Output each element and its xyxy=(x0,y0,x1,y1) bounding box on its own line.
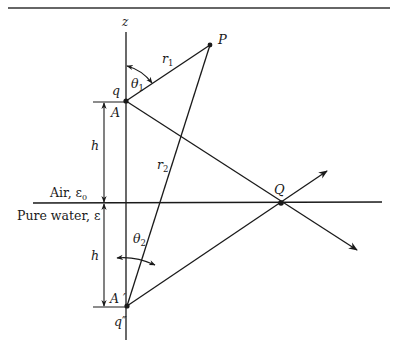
label-theta2: θ2 xyxy=(133,231,146,248)
label-A: A xyxy=(110,105,120,120)
air-medium-label: Air, ε0 xyxy=(49,185,87,202)
label-P: P xyxy=(217,32,227,47)
point-P xyxy=(208,43,213,48)
label-A-prime: A ′ xyxy=(109,291,126,306)
label-Q: Q xyxy=(274,182,285,197)
label-q: q xyxy=(112,83,120,98)
ray-Aprime-through-Q xyxy=(127,171,327,306)
label-h-lower: h xyxy=(91,248,99,263)
z-axis-label: z xyxy=(121,15,129,29)
label-r2: r2 xyxy=(157,157,168,174)
point-A xyxy=(123,98,128,103)
label-h-upper: h xyxy=(91,138,99,153)
image-charge-diagram: z Air, ε0 Pure water, ε P Q q A A ′ q″ r… xyxy=(0,0,398,356)
water-medium-label: Pure water, ε xyxy=(17,208,100,223)
water-surface-line xyxy=(33,202,382,203)
label-q-image: q″ xyxy=(114,314,127,329)
label-theta1: θ1 xyxy=(131,76,144,93)
ray-A-through-Q xyxy=(126,101,357,250)
point-Q xyxy=(278,200,284,206)
theta2-arc xyxy=(117,258,155,265)
label-r1: r1 xyxy=(162,51,173,68)
